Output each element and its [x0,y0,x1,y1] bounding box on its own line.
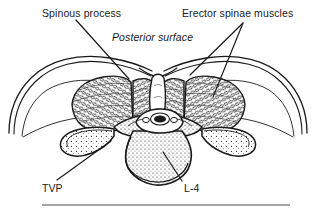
label-tvp: TVP [42,182,63,194]
spinous-process-leader [76,20,129,79]
nerve-root-right [171,117,178,122]
transverse-process-right [202,127,256,156]
label-l4: L-4 [184,182,199,194]
label-erector-spinae-muscles: Erector spinae muscles [182,7,293,19]
vertebral-body [126,131,192,185]
spinal-cord-cauda-equina [154,115,166,122]
transverse-process-left [60,127,114,156]
label-spinous-process: Spinous process [42,7,121,19]
label-posterior-surface: Posterior surface [112,31,193,43]
nerve-root-left [143,117,150,122]
erector-spinae-leader-upper [190,23,243,75]
anatomical-figure: Spinous process Erector spinae muscles P… [0,0,316,213]
